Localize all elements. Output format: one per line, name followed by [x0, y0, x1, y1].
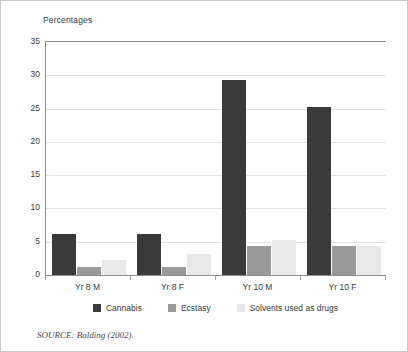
bar-ecstasy — [77, 267, 101, 275]
bar-ecstasy — [162, 267, 186, 275]
legend-label: Solvents used as drugs — [250, 303, 338, 313]
x-axis-category-label: Yr 8 M — [75, 282, 100, 292]
y-axis-tick-label: 0 — [10, 270, 40, 279]
x-axis-category-label: Yr 8 F — [161, 282, 184, 292]
plot-area — [45, 41, 386, 276]
bar-solvents-used-as-drugs — [272, 240, 296, 275]
legend-item-cannabis[interactable]: Cannabis — [93, 303, 142, 313]
legend-swatch-icon — [93, 304, 101, 312]
bar-cannabis — [307, 107, 331, 275]
figure-panel: Percentages 05101520253035 Yr 8 MYr 8 FY… — [0, 0, 408, 352]
source-note: SOURCE: Balding (2002). — [37, 330, 134, 340]
bar-solvents-used-as-drugs — [357, 246, 381, 275]
y-axis-tick-label: 20 — [10, 137, 40, 146]
y-axis-tick-label: 10 — [10, 203, 40, 212]
x-axis-tick — [45, 276, 46, 280]
legend-swatch-icon — [237, 304, 245, 312]
legend-swatch-icon — [168, 304, 176, 312]
y-axis-tick-label: 35 — [10, 37, 40, 46]
bar-ecstasy — [332, 246, 356, 275]
y-axis-tick-label: 30 — [10, 70, 40, 79]
x-axis-category-label: Yr 10 F — [329, 282, 357, 292]
legend-label: Cannabis — [106, 303, 142, 313]
bar-cannabis — [137, 234, 161, 275]
y-axis-tick-label: 25 — [10, 103, 40, 112]
bar-solvents-used-as-drugs — [102, 260, 126, 275]
x-axis-category-label: Yr 10 M — [243, 282, 273, 292]
chart-legend: CannabisEcstasySolvents used as drugs — [45, 303, 386, 313]
x-axis-tick — [215, 276, 216, 280]
bar-cannabis — [222, 80, 246, 275]
legend-item-ecstasy[interactable]: Ecstasy — [168, 303, 211, 313]
x-axis-tick — [130, 276, 131, 280]
legend-label: Ecstasy — [181, 303, 211, 313]
y-axis-tick-labels: 05101520253035 — [7, 41, 40, 276]
x-axis-tick — [385, 276, 386, 280]
bar-group — [216, 42, 301, 275]
x-axis-tick — [300, 276, 301, 280]
y-axis-caption: Percentages — [43, 15, 92, 25]
bar-group — [131, 42, 216, 275]
y-axis-tick-label: 5 — [10, 236, 40, 245]
y-axis-tick-label: 15 — [10, 170, 40, 179]
bar-ecstasy — [247, 246, 271, 275]
bar-group — [301, 42, 386, 275]
bar-cannabis — [52, 234, 76, 275]
bar-solvents-used-as-drugs — [187, 254, 211, 275]
legend-item-solvents-used-as-drugs[interactable]: Solvents used as drugs — [237, 303, 338, 313]
bar-group — [46, 42, 131, 275]
bars-layer — [46, 42, 386, 275]
